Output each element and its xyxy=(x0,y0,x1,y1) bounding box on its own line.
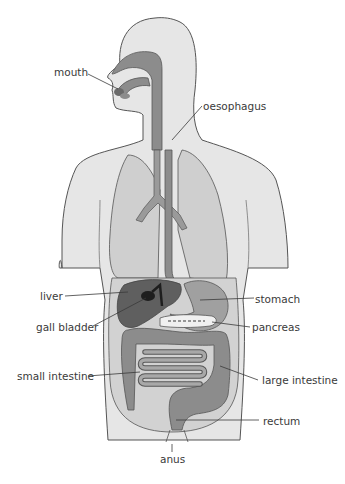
label-large-intestine: large intestine xyxy=(262,374,338,386)
label-oesophagus: oesophagus xyxy=(203,100,266,112)
label-small-intestine: small intestine xyxy=(17,370,94,382)
digestive-system-diagram xyxy=(0,0,345,484)
label-pancreas: pancreas xyxy=(252,321,300,333)
label-liver: liver xyxy=(40,290,63,302)
label-anus: anus xyxy=(160,453,185,465)
label-rectum: rectum xyxy=(263,415,300,427)
label-stomach: stomach xyxy=(255,293,300,305)
label-gall-bladder: gall bladder xyxy=(36,321,98,333)
label-mouth: mouth xyxy=(54,66,88,78)
